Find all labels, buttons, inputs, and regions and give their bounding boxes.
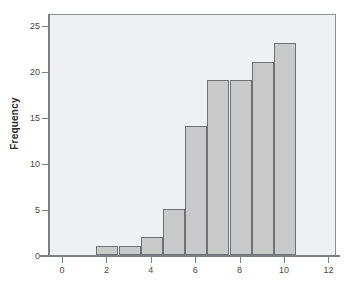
- histogram-chart: 0510152025 Frequency 024681012: [0, 0, 354, 287]
- x-axis-tick-label: 4: [139, 265, 163, 275]
- x-axis-line: [40, 255, 340, 257]
- x-axis-tick: [62, 257, 63, 263]
- y-axis-tick: [42, 26, 49, 27]
- y-axis-tick-label: 20: [0, 68, 40, 77]
- x-axis-tick-label: 8: [228, 265, 252, 275]
- plot-area: [49, 14, 336, 256]
- histogram-bar: [252, 62, 274, 255]
- y-axis-tick-label: 5: [0, 206, 40, 215]
- x-axis-tick: [151, 257, 152, 263]
- x-axis-tick-label: 12: [316, 265, 340, 275]
- x-axis-tick: [328, 257, 329, 263]
- x-axis-tick-label: 6: [183, 265, 207, 275]
- y-axis-title: Frequency: [9, 91, 20, 157]
- x-axis-tick: [284, 257, 285, 263]
- y-axis-tick-label: 0: [0, 252, 40, 261]
- bars-container: [50, 15, 335, 255]
- histogram-bar: [163, 209, 185, 255]
- x-axis-tick-label: 0: [50, 265, 74, 275]
- x-axis-tick: [240, 257, 241, 263]
- histogram-bar: [274, 43, 296, 255]
- x-axis-tick-label: 2: [94, 265, 118, 275]
- y-axis-tick-label: 25: [0, 22, 40, 31]
- y-axis-tick: [42, 72, 49, 73]
- y-axis-tick: [42, 164, 49, 165]
- x-axis-tick: [195, 257, 196, 263]
- y-axis-tick-label: 10: [0, 160, 40, 169]
- histogram-bar: [230, 80, 252, 255]
- y-axis-tick-label: 15: [0, 114, 40, 123]
- histogram-bar: [119, 246, 141, 255]
- histogram-bar: [141, 237, 163, 255]
- x-axis-tick: [106, 257, 107, 263]
- y-axis-tick: [42, 210, 49, 211]
- x-axis-tick-label: 10: [272, 265, 296, 275]
- y-axis-line: [48, 14, 50, 257]
- y-axis-tick: [42, 118, 49, 119]
- histogram-bar: [207, 80, 229, 255]
- histogram-bar: [185, 126, 207, 255]
- histogram-bar: [96, 246, 118, 255]
